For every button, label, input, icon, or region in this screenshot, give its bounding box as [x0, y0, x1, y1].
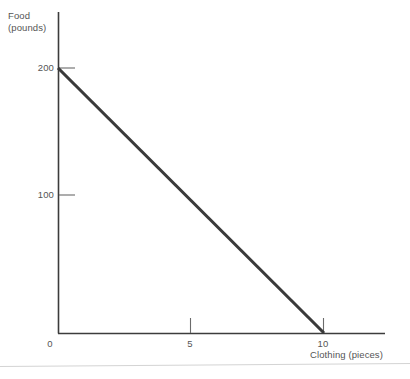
budget-line-chart-figure: Food (pounds) 200 100 0 5 10 Clothing (p… [0, 0, 410, 379]
y-tick-label-200: 200 [28, 62, 54, 74]
x-tick-label-5: 5 [184, 338, 196, 350]
x-axis-title: Clothing (pieces) [310, 349, 383, 361]
y-tick-label-100: 100 [28, 189, 54, 201]
y-axis-title: Food (pounds) [8, 10, 46, 33]
y-axis-title-line1: Food [8, 10, 46, 22]
chart-plot-area [0, 0, 410, 379]
y-axis-title-line2: (pounds) [8, 22, 46, 34]
budget-constraint-line [58, 68, 324, 333]
bottom-separator-rule [0, 364, 410, 367]
x-tick-label-0: 0 [44, 338, 56, 350]
x-tick-label-10: 10 [315, 338, 331, 350]
